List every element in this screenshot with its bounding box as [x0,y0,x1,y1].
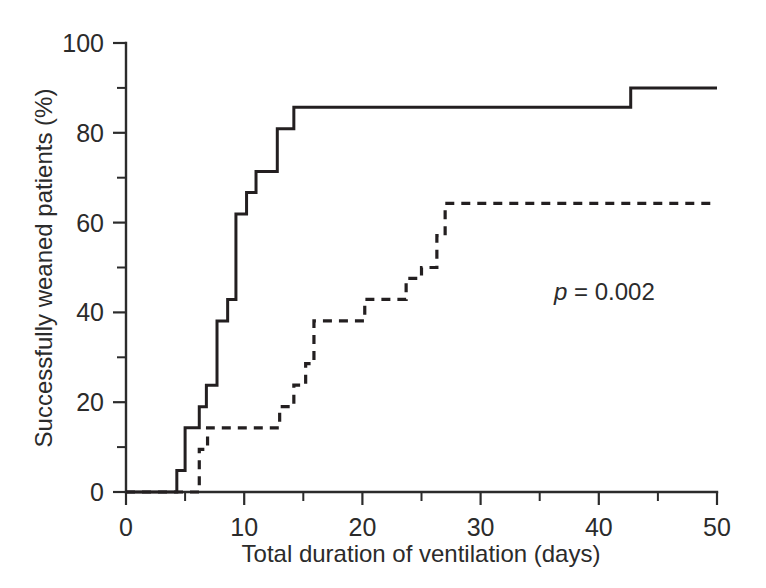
chart-figure: 020406080100 01020304050 Total duration … [0,0,766,588]
x-tick-label: 30 [467,513,495,541]
p-value-symbol: p [553,278,567,305]
p-value-number: = 0.002 [567,278,654,305]
y-tick-label: 0 [90,478,104,506]
y-tick-label: 40 [76,298,104,326]
step-chart: 020406080100 01020304050 Total duration … [0,0,766,588]
x-axis-title: Total duration of ventilation (days) [242,540,601,567]
y-tick-label: 100 [62,29,104,57]
y-tick-label: 60 [76,209,104,237]
x-tick-label: 20 [348,513,376,541]
x-tick-label: 10 [230,513,258,541]
y-axis-title: Successfully weaned patients (%) [30,89,57,448]
x-tick-label: 40 [585,513,613,541]
x-tick-label: 0 [119,513,133,541]
y-tick-label: 80 [76,119,104,147]
p-value-annotation: p = 0.002 [553,278,655,305]
x-tick-label: 50 [703,513,731,541]
y-tick-label: 20 [76,388,104,416]
